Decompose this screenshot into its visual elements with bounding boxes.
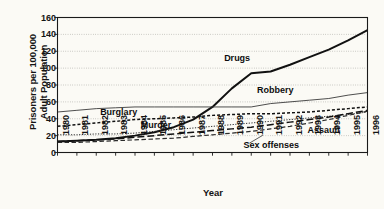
- plot-area: [0, 0, 384, 209]
- x-tick-label: 1980: [61, 115, 71, 155]
- x-tick-label: 1996: [371, 115, 381, 155]
- x-tick-label: 1988: [216, 115, 226, 155]
- chart-figure: Prisoners per 100,000 Adult Population 1…: [0, 0, 384, 209]
- series-label-drugs: Drugs: [224, 53, 250, 63]
- series-label-sex-offenses: Sex offenses: [244, 140, 300, 150]
- x-tick-label: 1982: [100, 115, 110, 155]
- x-tick-label: 1995: [352, 115, 362, 155]
- series-label-murder: Murder: [141, 120, 172, 130]
- series-label-robbery: Robbery: [257, 85, 294, 95]
- x-tick-label: 1986: [177, 115, 187, 155]
- series-label-assault: Assault: [307, 125, 340, 135]
- x-tick-label: 1981: [80, 115, 90, 155]
- x-tick-label: 1987: [197, 115, 207, 155]
- series-label-burglary: Burglary: [100, 107, 137, 117]
- x-axis-title: Year: [58, 187, 368, 198]
- x-tick-label: 1983: [119, 115, 129, 155]
